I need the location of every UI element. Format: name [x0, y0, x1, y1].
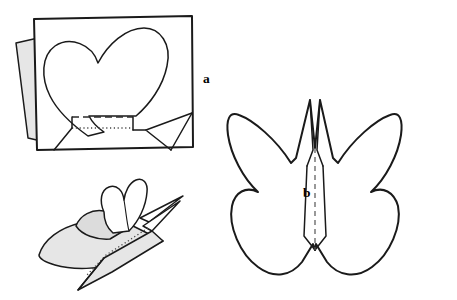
craft-diagram-svg — [0, 0, 457, 300]
raised-wing-left-lobe — [101, 179, 147, 233]
label-b: b — [303, 186, 311, 200]
label-a: a — [203, 72, 210, 86]
panel-a-card-with-heart — [16, 16, 193, 150]
card-rectangle — [34, 16, 193, 150]
panel-middle-folded-butterfly — [39, 179, 183, 290]
figure-root: a b — [0, 0, 457, 300]
panel-b-butterfly-cutout — [227, 100, 401, 274]
